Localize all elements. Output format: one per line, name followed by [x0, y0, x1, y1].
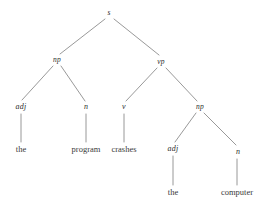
- tree-edge-np_object-to-n_object: [204, 113, 236, 145]
- tree-leaf-the-subject: the: [16, 145, 26, 154]
- tree-edge-layer: [0, 0, 265, 216]
- tree-edge-np_subject-to-adj_subject: [22, 66, 53, 100]
- tree-node-vp: vp: [157, 58, 164, 66]
- syntax-tree-figure: s np vp adj n v np adj n the program cra…: [0, 0, 265, 216]
- tree-node-n-subject: n: [84, 103, 88, 111]
- tree-leaf-computer: computer: [221, 188, 253, 197]
- tree-node-adj-subject: adj: [16, 103, 27, 111]
- tree-edge-root-to-vp: [114, 19, 159, 55]
- tree-node-adj-object: adj: [168, 145, 179, 153]
- tree-edge-vp-to-v: [126, 68, 157, 101]
- tree-node-v: v: [122, 103, 126, 111]
- tree-edge-np_subject-to-n_subject: [61, 66, 85, 101]
- tree-node-np-subject: np: [53, 56, 61, 64]
- tree-edge-np_object-to-adj_object: [175, 113, 196, 142]
- tree-edges: [21, 19, 237, 185]
- tree-node-s: s: [107, 9, 110, 17]
- tree-node-n-object: n: [236, 148, 240, 156]
- tree-node-np-object: np: [196, 103, 204, 111]
- tree-edge-root-to-np_subject: [60, 19, 105, 54]
- tree-leaf-crashes: crashes: [111, 145, 136, 154]
- tree-leaf-program: program: [72, 145, 101, 154]
- tree-edge-vp-to-np_object: [166, 68, 197, 101]
- tree-leaf-the-object: the: [168, 188, 178, 197]
